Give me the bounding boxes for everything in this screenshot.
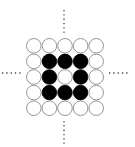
empty-circle	[58, 101, 73, 116]
empty-circle	[58, 39, 73, 54]
empty-circle	[27, 70, 42, 85]
filled-circle	[58, 85, 73, 100]
empty-circle	[42, 39, 57, 54]
empty-circle	[27, 85, 42, 100]
circle-grid	[27, 39, 104, 116]
empty-circle	[42, 101, 57, 116]
filled-circle	[42, 70, 57, 85]
empty-circle	[27, 54, 42, 69]
empty-circle	[73, 39, 88, 54]
empty-circle	[89, 85, 104, 100]
empty-circle	[89, 70, 104, 85]
empty-circle	[58, 70, 73, 85]
empty-circle	[27, 39, 42, 54]
filled-circle	[42, 85, 57, 100]
empty-circle	[73, 101, 88, 116]
filled-circle	[73, 70, 88, 85]
empty-circle	[89, 54, 104, 69]
empty-circle	[89, 39, 104, 54]
filled-circle	[73, 54, 88, 69]
ring-grid-diagram	[0, 0, 135, 147]
filled-circle	[58, 54, 73, 69]
filled-circle	[42, 54, 57, 69]
filled-circle	[73, 85, 88, 100]
empty-circle	[27, 101, 42, 116]
empty-circle	[89, 101, 104, 116]
